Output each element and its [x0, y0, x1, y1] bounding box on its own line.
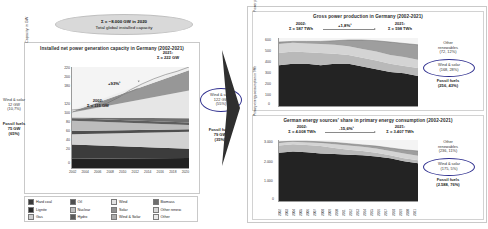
gross-power-end-callout: 2021: Σ = 598 TWh [379, 22, 421, 32]
legend-label: Nuclear [78, 208, 91, 212]
start-value: Σ = 4.008 TWh [280, 130, 324, 135]
legend-swatch-nuclear [70, 207, 76, 213]
primary-energy-end-callout: 2021: Σ = 3.407 TWh [377, 125, 423, 135]
left-chart-y-axis-label: Capacity in GW [25, 0, 29, 43]
global-capacity-caption: Total global installed capacity [96, 25, 153, 30]
legend-item-other: Other [153, 214, 195, 220]
legend-swatch-wind [111, 199, 117, 205]
primary-energy-growth-arrowhead [374, 131, 376, 133]
legend-item-lignite: Lignite [28, 207, 70, 213]
slide-root: Σ = ~8.000 GW in 2020 Total global insta… [0, 0, 488, 229]
legend-swatch-solar [111, 207, 117, 213]
left-chart-fossil-start-annotation: Fossil fuels 75 GW (65%) [1, 122, 27, 136]
left-chart-growth-label: +93%¹ [108, 81, 121, 86]
legend-row: Hard coal Oil Wind Biomass [28, 199, 194, 205]
legend-item-biomass: Biomass [153, 199, 195, 205]
gross-power-growth-arrowhead [374, 28, 376, 30]
legend-label: Wind & Solar [119, 215, 141, 219]
end-value: Σ = 3.407 TWh [377, 130, 423, 135]
gross-power-production-panel: Gross power production in Germany (2002-… [252, 11, 484, 111]
primary-energy-fossil-annotation: Fossil fuels (2.588, 76%) [425, 178, 471, 188]
legend-item-wind: Wind [111, 199, 153, 205]
gross-power-start-callout: 2002: Σ = 587 TWh [281, 22, 321, 32]
start-value: Σ = 587 TWh [281, 27, 321, 32]
legend-label: Lignite [36, 208, 47, 212]
left-chart-start-value: Σ = 115 GW [77, 104, 119, 109]
primary-energy-other-renewables-annotation: Other renewables (236, 11%) [425, 140, 471, 154]
legend-swatch-oil [70, 199, 76, 205]
global-capacity-bubble: Σ = ~8.000 GW in 2020 Total global insta… [55, 14, 193, 35]
legend-label: Hydro [78, 215, 88, 219]
legend-label: Solar [119, 208, 128, 212]
legend-item-solar: Solar [111, 207, 153, 213]
primary-energy-start-callout: 2002: Σ = 4.008 TWh [280, 125, 324, 135]
primary-energy-y-axis-label: Primary energy consumption in TWh [253, 0, 257, 116]
gross-power-title: Gross power production in Germany (2002-… [257, 15, 479, 20]
left-chart-legend: Hard coal Oil Wind Biomass Lignite [24, 196, 198, 222]
legend-swatch-hydro [70, 214, 76, 220]
legend-label: Gas [36, 215, 43, 219]
global-capacity-value: Σ = ~8.000 GW in 2020 [101, 19, 147, 24]
legend-label: Hard coal [36, 200, 52, 204]
legend-swatch-gas [28, 214, 34, 220]
legend-row: Lignite Nuclear Solar Other renew. [28, 207, 194, 213]
left-chart-plot [71, 67, 189, 169]
legend-item-nuclear: Nuclear [70, 207, 112, 213]
legend-item-oil: Oil [70, 199, 112, 205]
end-value: Σ = 598 TWh [379, 27, 421, 32]
annot-pct: (65%) [1, 132, 27, 137]
gross-power-other-renewables-annotation: Other renewables (72, 12%) [425, 41, 471, 55]
legend-item-wind-and-solar: Wind & Solar [111, 214, 153, 220]
gross-power-growth-label: +1,8%¹ [338, 23, 352, 28]
legend-swatch-other-renewables [153, 207, 159, 213]
annot-l3: (236, 11%) [425, 149, 471, 154]
gross-power-wind-solar-annotation: Wind & solar (168, 28%) [423, 59, 475, 77]
gross-power-growth-arrow [323, 29, 375, 30]
primary-energy-x-ticks: 20022003200420052006 2007200820092010201… [278, 202, 417, 216]
legend-row: Gas Hydro Wind & Solar Other [28, 214, 194, 220]
left-chart-panel: Installed net power generation capacity … [24, 42, 200, 194]
legend-label: Other renew. [161, 208, 182, 212]
primary-energy-wind-solar-annotation: Wind & solar (175, 5%) [423, 158, 475, 176]
legend-swatch-hard-coal [28, 199, 34, 205]
legend-swatch-wind-and-solar [111, 214, 117, 220]
annot-l2: (256, 43%) [425, 84, 471, 89]
primary-energy-panel: German energy sources' share in primary … [252, 115, 484, 220]
legend-swatch-lignite [28, 207, 34, 213]
primary-energy-title: German energy sources' share in primary … [256, 119, 480, 124]
left-chart-x-ticks: 20022004200620082010 2012201420162018202… [69, 170, 189, 174]
legend-swatch-biomass [153, 199, 159, 205]
annot-pct: (10,7%) [1, 107, 27, 112]
annot-l3: (72, 12%) [425, 50, 471, 55]
legend-label: Biomass [161, 200, 175, 204]
primary-energy-plot [278, 140, 418, 202]
legend-item-gas: Gas [28, 214, 70, 220]
legend-label: Wind [119, 200, 127, 204]
annot-l2: (2.588, 76%) [425, 183, 471, 188]
gross-power-plot [278, 38, 418, 107]
legend-label: Other [161, 215, 170, 219]
right-charts-container: Gross power production in Germany (2002-… [247, 6, 487, 223]
left-chart-end-callout: 2021: Σ = 222 GW [145, 51, 191, 61]
primary-energy-growth-arrow [325, 132, 375, 133]
left-chart-start-callout: 2002: Σ = 115 GW [77, 99, 119, 109]
legend-item-hard-coal: Hard coal [28, 199, 70, 205]
legend-item-other-renewables: Other renew. [153, 207, 195, 213]
legend-label: Oil [78, 200, 83, 204]
primary-energy-growth-label: -15,6%¹ [339, 126, 354, 131]
left-chart-wind-solar-start-annotation: Wind & solar 12 GW (10,7%) [1, 98, 27, 112]
legend-swatch-other [153, 214, 159, 220]
annot-l2: (168, 28%) [439, 68, 458, 73]
left-chart-end-value: Σ = 222 GW [145, 56, 191, 61]
gross-power-fossil-annotation: Fossil fuels (256, 43%) [425, 79, 471, 89]
annot-l2: (175, 5%) [441, 167, 458, 172]
legend-item-hydro: Hydro [70, 214, 112, 220]
